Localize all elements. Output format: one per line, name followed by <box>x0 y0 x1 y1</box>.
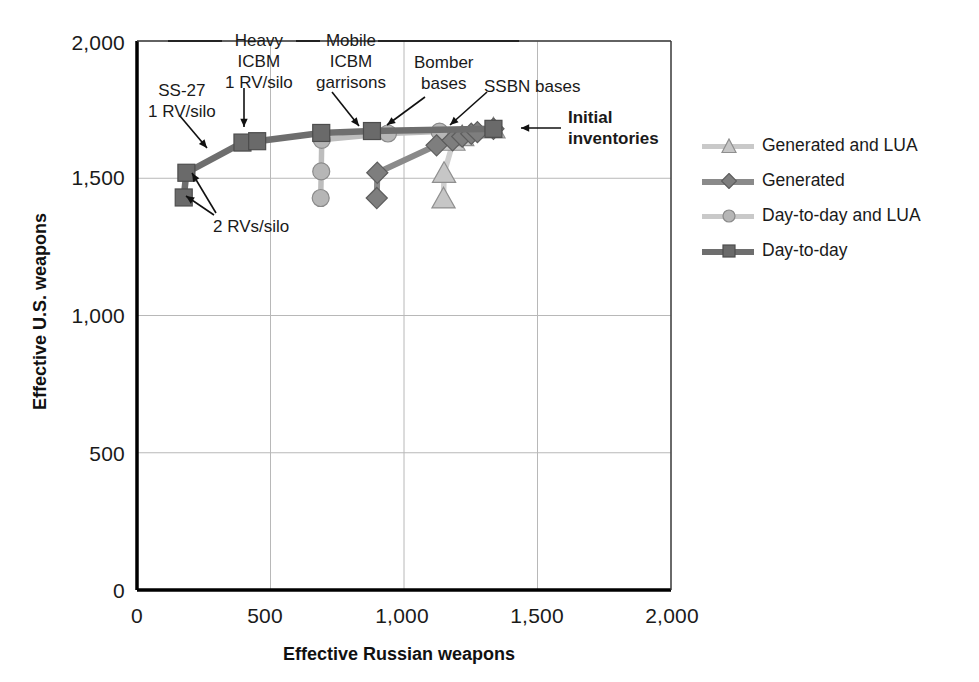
chart-canvas <box>0 0 979 682</box>
legend-marker-diamond-icon <box>721 173 736 188</box>
x-axis-title: Effective Russian weapons <box>283 644 515 665</box>
x-tick-1000: 1,000 <box>362 604 442 628</box>
legend-item-day-to-day-and-lua[interactable]: Day-to-day and LUA <box>702 198 972 233</box>
data-point-day-to-day-6 <box>485 120 502 137</box>
leader-heavy-icbm-head <box>240 119 247 127</box>
legend-item-generated[interactable]: Generated <box>702 163 972 198</box>
leader-bomber-bases-head <box>387 117 396 125</box>
legend-item-generated-and-lua[interactable]: Generated and LUA <box>702 128 972 163</box>
y-axis-title: Effective U.S. weapons <box>30 213 51 410</box>
chart-legend: Generated and LUAGeneratedDay-to-day and… <box>702 128 972 268</box>
x-tick-500: 500 <box>225 604 305 628</box>
data-point-day-to-day-3 <box>249 133 266 150</box>
y-tick-1000: 1,000 <box>45 304 125 328</box>
legend-label: Generated and LUA <box>762 135 918 156</box>
y-tick-0: 0 <box>45 579 125 603</box>
data-point-day-to-day-1 <box>178 164 195 181</box>
data-point-day-to-day-5 <box>363 123 380 140</box>
data-point-day-to-day-4 <box>313 124 330 141</box>
x-tick-2000: 2,000 <box>632 604 712 628</box>
chart-figure: 2,000 1,500 1,000 500 0 0 500 1,000 1,50… <box>0 0 979 682</box>
legend-label: Generated <box>762 170 845 191</box>
y-tick-500: 500 <box>45 442 125 466</box>
legend-key-triangle <box>702 133 754 159</box>
legend-label: Day-to-day and LUA <box>762 205 921 226</box>
data-point-generated-0 <box>366 187 387 208</box>
x-tick-1500: 1,500 <box>497 604 577 628</box>
legend-key-circle <box>702 203 754 229</box>
data-point-generated-1 <box>367 162 388 183</box>
annotation-heavy-icbm-1rv-silo: Heavy ICBM 1 RV/silo <box>225 30 293 93</box>
y-tick-2000: 2,000 <box>45 31 125 55</box>
annotation-mobile-icbm-garrisons: Mobile ICBM garrisons <box>316 30 386 93</box>
legend-marker-circle-icon <box>721 208 736 223</box>
data-point-day-to-day-and-lua-1 <box>313 163 330 180</box>
annotation-bomber-bases: Bomber bases <box>414 52 474 94</box>
legend-marker-triangle-icon <box>721 138 736 153</box>
legend-item-day-to-day[interactable]: Day-to-day <box>702 233 972 268</box>
data-point-day-to-day-and-lua-0 <box>312 190 329 207</box>
legend-label: Day-to-day <box>762 240 848 261</box>
data-point-generated-and-lua-1 <box>432 162 455 183</box>
legend-key-diamond <box>702 168 754 194</box>
legend-key-square <box>702 238 754 264</box>
legend-marker-square-icon <box>721 243 736 258</box>
x-tick-0: 0 <box>97 604 177 628</box>
annotation-ssbn-bases: SSBN bases <box>484 76 580 97</box>
data-point-generated-and-lua-0 <box>432 187 455 208</box>
annotation-two-rvs-silo: 2 RVs/silo <box>213 216 289 237</box>
annotation-ss27-1rv-silo: SS-27 1 RV/silo <box>148 80 216 122</box>
leader-initial-inventories-head <box>521 124 529 131</box>
annotation-initial-inventories: Initial inventories <box>568 107 659 149</box>
y-tick-1500: 1,500 <box>45 166 125 190</box>
